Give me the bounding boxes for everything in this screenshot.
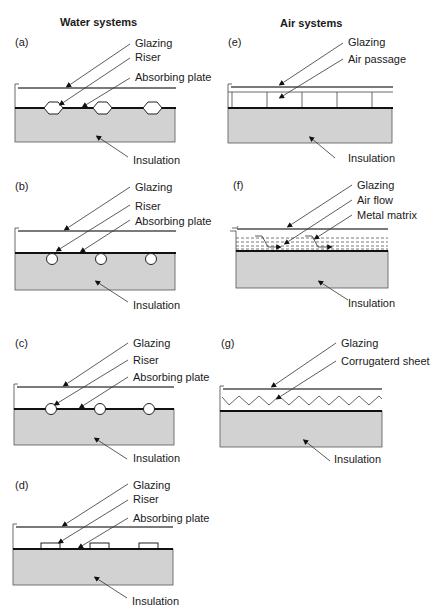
panel-f-tag: (f): [233, 179, 243, 191]
panel-c-insulation-label: Insulation: [133, 452, 180, 464]
panel-g-insulation-label: Insulation: [334, 453, 381, 465]
panel-g-sheet-label: Corrugaterd sheet: [341, 355, 430, 367]
water-systems-header: Water systems: [60, 16, 137, 28]
panel-g-insulation: [220, 411, 382, 447]
panel-f-flow-label: Air flow: [357, 194, 393, 206]
panel-b-absorber-label: Absorbing plate: [135, 215, 211, 227]
panel-e: (e) Glazing Air passage Insulation: [228, 36, 406, 164]
panel-c-absorber-label: Absorbing plate: [133, 371, 209, 383]
panel-f: (f) Glazing Air flow Metal matrix: [230, 179, 417, 300]
panel-d-insulation: [13, 549, 173, 585]
panel-f-insulation-label: Insulation: [348, 297, 395, 309]
panel-f-matrix-label: Metal matrix: [357, 209, 417, 221]
panel-d-absorber-label: Absorbing plate: [133, 512, 209, 524]
panel-e-insulation: [228, 108, 392, 143]
panel-e-insulation-label: Insulation: [348, 152, 395, 164]
panel-d-insulation-label: Insulation: [132, 595, 179, 607]
panel-a-glazing-label: Glazing: [135, 37, 172, 49]
panel-g-tag: (g): [221, 337, 234, 349]
panel-f-metal-matrix: [236, 238, 388, 249]
panel-a-riser-label: Riser: [135, 51, 161, 63]
panel-c: (c) Glazing Riser Absorbing plate: [14, 337, 209, 459]
panel-f-insulation: [236, 251, 388, 288]
solar-collector-diagram: Water systems Air systems (a) Glazing Ri…: [0, 0, 435, 612]
panel-e-air-passage-cells: [232, 92, 372, 108]
panel-b-glazing-label: Glazing: [135, 181, 172, 193]
panel-e-glazing-label: Glazing: [348, 36, 385, 48]
panel-d-tag: (d): [15, 479, 28, 491]
panel-d-riser-label: Riser: [133, 493, 159, 505]
panel-c-tag: (c): [15, 337, 28, 349]
panel-e-tag: (e): [228, 36, 241, 48]
panel-d: (d) Glazing Riser Absorbing plate: [13, 479, 209, 598]
panel-a-absorber-label: Absorbing plate: [135, 71, 211, 83]
panel-d-glazing-label: Glazing: [133, 479, 170, 491]
panel-f-glazing-label: Glazing: [357, 179, 394, 191]
panel-b: (b) Glazing Riser Absorbing plate Insula…: [15, 180, 211, 311]
panel-b-insulation-label: Insulation: [133, 299, 180, 311]
panel-g: (g) Glazing Corrugaterd sheet: [220, 337, 430, 461]
panel-c-glazing-label: Glazing: [133, 337, 170, 349]
panel-b-tag: (b): [15, 180, 28, 192]
panel-a-tag: (a): [15, 36, 28, 48]
panel-c-riser-label: Riser: [133, 354, 159, 366]
panel-e-passage-label: Air passage: [348, 53, 406, 65]
panel-a: (a) Glazing Riser Absorbing plate Insula…: [15, 36, 211, 166]
panel-b-riser-label: Riser: [135, 200, 161, 212]
panel-g-corrugated-sheet: [222, 396, 382, 405]
panel-a-insulation-label: Insulation: [133, 154, 180, 166]
panel-g-glazing-label: Glazing: [341, 337, 378, 349]
air-systems-header: Air systems: [280, 17, 342, 29]
